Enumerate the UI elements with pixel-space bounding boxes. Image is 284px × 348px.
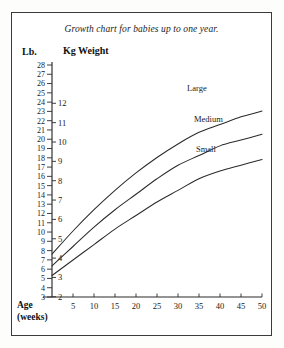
x-tick-label: 40 <box>216 301 225 311</box>
lb-tick-label: 24 <box>37 98 45 107</box>
x-tick-label: 20 <box>132 301 141 311</box>
lb-tick-group: 3456789101112131415161718192021222324252… <box>37 61 52 302</box>
x-tick-label: 50 <box>258 301 267 311</box>
curve-label-large: Large <box>187 83 207 93</box>
lb-tick-label: 3 <box>41 293 45 302</box>
curve-labels-group: LargeMediumSmall <box>187 83 223 154</box>
curve-label-small: Small <box>196 144 216 154</box>
lb-tick-label: 6 <box>41 265 45 274</box>
lb-tick-label: 12 <box>37 209 45 218</box>
kg-tick-label: 8 <box>58 176 62 186</box>
lb-tick-label: 4 <box>41 284 45 293</box>
x-tick-label: 10 <box>90 301 99 311</box>
curves-group <box>52 111 262 275</box>
growth-chart-figure: Growth chart for babies up to one year. … <box>0 0 284 348</box>
x-tick-label: 35 <box>195 301 204 311</box>
lb-tick-label: 10 <box>37 228 45 237</box>
kg-tick-label: 11 <box>58 118 66 128</box>
lb-tick-label: 19 <box>37 144 45 153</box>
lb-tick-label: 28 <box>37 61 45 70</box>
lb-tick-label: 20 <box>37 135 45 144</box>
kg-tick-label: 10 <box>58 137 67 147</box>
lb-tick-label: 15 <box>37 182 45 191</box>
kg-tick-label: 9 <box>58 156 62 166</box>
x-tick-label: 25 <box>153 301 162 311</box>
x-tick-label: 5 <box>71 301 75 311</box>
x-tick-label: 15 <box>111 301 120 311</box>
growth-curve-large <box>52 111 262 254</box>
kg-tick-group: 23456789101112 <box>52 98 67 301</box>
lb-tick-label: 9 <box>41 237 45 246</box>
lb-tick-label: 25 <box>37 89 45 98</box>
lb-tick-label: 22 <box>37 117 45 126</box>
curve-label-medium: Medium <box>194 114 223 124</box>
lb-tick-label: 21 <box>37 126 45 135</box>
lb-tick-label: 18 <box>37 154 45 163</box>
kg-tick-label: 7 <box>58 195 62 205</box>
lb-tick-label: 26 <box>37 79 45 88</box>
lb-tick-label: 27 <box>37 70 45 79</box>
axes-group <box>43 62 262 297</box>
growth-curve-small <box>52 159 262 275</box>
lb-tick-label: 5 <box>41 274 45 283</box>
kg-tick-label: 12 <box>58 98 67 108</box>
kg-tick-label: 2 <box>58 292 62 302</box>
lb-tick-label: 16 <box>37 172 45 181</box>
lb-tick-label: 14 <box>37 191 45 200</box>
lb-tick-label: 23 <box>37 107 45 116</box>
lb-tick-label: 8 <box>41 247 45 256</box>
x-tick-label: 45 <box>237 301 246 311</box>
growth-curve-medium <box>52 134 262 266</box>
kg-tick-label: 3 <box>58 272 62 282</box>
kg-tick-label: 5 <box>58 234 62 244</box>
lb-tick-label: 17 <box>37 163 45 172</box>
lb-tick-label: 11 <box>37 219 45 228</box>
lb-tick-label: 13 <box>37 200 45 209</box>
x-tick-label: 30 <box>174 301 183 311</box>
kg-tick-label: 6 <box>58 214 62 224</box>
plot-area: 3456789101112131415161718192021222324252… <box>0 0 284 348</box>
lb-tick-label: 7 <box>41 256 45 265</box>
x-tick-group: 5101520253035404550 <box>71 294 266 312</box>
